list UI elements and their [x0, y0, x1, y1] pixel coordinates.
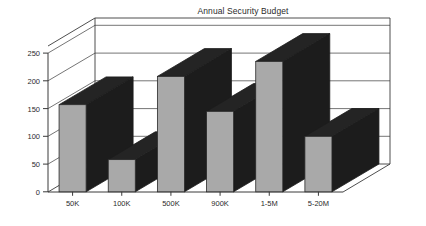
ytick-label-200: 200	[27, 77, 40, 86]
ytick-label-150: 150	[27, 105, 40, 114]
bar-front-face-1-5M	[256, 61, 283, 191]
annual-security-budget-chart: Annual Security Budget	[0, 0, 426, 226]
xtick-label-5-20M: 5-20M	[308, 199, 329, 208]
xtick-label-50K: 50K	[66, 199, 79, 208]
bar-front-face-500K	[157, 76, 184, 191]
ytick-label-250: 250	[27, 49, 40, 58]
chart-title: Annual Security Budget	[197, 6, 289, 16]
bar-front-face-50K	[59, 105, 86, 192]
ytick-label-50: 50	[32, 160, 40, 169]
ytick-label-0: 0	[36, 188, 40, 197]
ytick-label-100: 100	[27, 132, 40, 141]
bar-front-face-5-20M	[305, 136, 332, 191]
bar-front-face-100K	[108, 160, 135, 192]
xtick-label-500K: 500K	[162, 199, 180, 208]
xtick-label-900K: 900K	[211, 199, 229, 208]
xtick-label-100K: 100K	[113, 199, 131, 208]
bar-front-face-900K	[207, 111, 234, 191]
xtick-label-1-5M: 1-5M	[261, 199, 278, 208]
